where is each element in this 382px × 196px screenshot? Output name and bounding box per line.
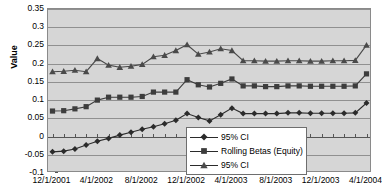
series-marker-1	[72, 146, 78, 152]
series-marker-2	[207, 84, 212, 89]
x-axis-tick-label: 4/1/2004	[349, 175, 382, 185]
legend-item[interactable]: 95% CI	[189, 158, 303, 172]
series-marker-1	[128, 129, 134, 135]
series-marker-1	[139, 126, 145, 132]
x-axis-tick-label: 4/1/2003	[214, 175, 247, 185]
series-marker-2	[229, 76, 234, 81]
series-marker-1	[150, 124, 156, 130]
series-marker-1	[229, 105, 235, 111]
series-marker-2	[341, 84, 346, 89]
series-marker-2	[330, 84, 335, 89]
legend-marker-square-icon	[189, 145, 219, 157]
series-marker-3	[217, 46, 224, 52]
series-marker-1	[106, 135, 112, 141]
y-axis-tick-label: 0	[39, 131, 44, 141]
series-marker-1	[207, 118, 213, 124]
legend-marker-triangle-icon	[189, 159, 219, 171]
series-marker-1	[296, 110, 302, 116]
series-marker-1	[307, 110, 313, 116]
series-marker-1	[83, 142, 89, 148]
y-axis-tick-label: -0.05	[25, 149, 44, 159]
series-marker-1	[263, 111, 269, 117]
series-marker-1	[117, 132, 123, 138]
series-marker-3	[184, 42, 191, 48]
series-marker-2	[95, 98, 100, 103]
series-line-2	[53, 74, 367, 111]
x-axis-tick-label: 8/1/2003	[259, 175, 292, 185]
y-axis-tickmark	[55, 172, 58, 173]
series-marker-1	[195, 115, 201, 121]
series-marker-2	[241, 83, 246, 88]
series-marker-1	[94, 138, 100, 144]
series-marker-2	[184, 77, 189, 82]
series-marker-1	[184, 111, 190, 117]
series-marker-3	[173, 47, 180, 53]
series-marker-1	[61, 148, 67, 154]
series-marker-2	[72, 106, 77, 111]
series-marker-1	[173, 117, 179, 123]
series-marker-1	[341, 110, 347, 116]
series-marker-2	[263, 84, 268, 89]
y-axis-tick-label: 0.05	[27, 112, 44, 122]
y-axis-tick-label: 0.25	[27, 39, 44, 49]
series-marker-1	[285, 110, 291, 116]
series-marker-2	[61, 108, 66, 113]
series-marker-2	[173, 89, 178, 94]
series-marker-2	[140, 94, 145, 99]
series-marker-2	[308, 84, 313, 89]
x-axis-tick-label: 12/1/2003	[302, 175, 340, 185]
legend-marker-diamond-icon	[189, 131, 219, 143]
legend-item[interactable]: 95% CI	[189, 130, 303, 144]
series-marker-2	[106, 95, 111, 100]
legend-label: 95% CI	[219, 132, 249, 142]
legend-item[interactable]: Rolling Betas (Equity)	[189, 144, 303, 158]
series-line-3	[53, 45, 367, 72]
series-marker-3	[161, 52, 168, 58]
series-marker-1	[319, 110, 325, 116]
series-marker-2	[218, 81, 223, 86]
series-marker-1	[240, 111, 246, 117]
series-marker-2	[128, 95, 133, 100]
y-axis-tick-label: 0.2	[32, 58, 44, 68]
y-axis-tick-labels: 0.350.30.250.20.150.10.050-0.05-0.1	[11, 0, 44, 196]
series-marker-2	[162, 89, 167, 94]
series-marker-2	[50, 108, 55, 113]
series-marker-2	[84, 104, 89, 109]
legend-label: 95% CI	[219, 160, 249, 170]
series-marker-2	[252, 83, 257, 88]
legend: 95% CI Rolling Betas (Equity) 95% CI	[186, 127, 307, 175]
series-marker-1	[251, 111, 257, 117]
series-marker-2	[151, 89, 156, 94]
series-marker-2	[297, 83, 302, 88]
y-axis-tick-label: 0.1	[32, 94, 44, 104]
series-marker-2	[196, 82, 201, 87]
x-axis-tick-labels: 12/1/20014/1/20028/1/200212/1/20024/1/20…	[0, 175, 377, 193]
y-axis-tick-label: 0.15	[27, 76, 44, 86]
series-marker-1	[50, 149, 56, 155]
series-marker-2	[117, 95, 122, 100]
series-marker-2	[274, 84, 279, 89]
series-marker-3	[363, 42, 370, 48]
y-axis-tick-label: 0.3	[32, 21, 44, 31]
series-marker-3	[94, 55, 101, 61]
series-marker-2	[353, 83, 358, 88]
series-marker-2	[285, 83, 290, 88]
x-axis-tick-label: 8/1/2002	[125, 175, 158, 185]
y-axis-tick-label: 0.35	[27, 3, 44, 13]
series-marker-2	[364, 71, 369, 76]
x-axis-tick-label: 12/1/2002	[167, 175, 205, 185]
x-axis-tick-label: 4/1/2002	[80, 175, 113, 185]
series-marker-1	[330, 110, 336, 116]
x-axis-tick-label: 12/1/2001	[33, 175, 71, 185]
legend-label: Rolling Betas (Equity)	[219, 146, 303, 156]
series-marker-3	[105, 62, 112, 68]
series-marker-1	[274, 111, 280, 117]
series-marker-2	[319, 84, 324, 89]
series-marker-3	[139, 61, 146, 67]
series-marker-1	[162, 121, 168, 127]
series-marker-1	[218, 112, 224, 118]
